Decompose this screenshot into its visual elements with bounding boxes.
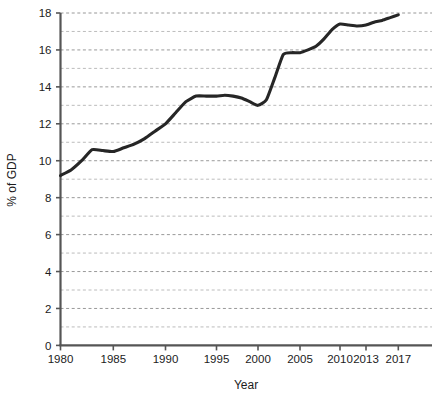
- x-axis-tick-label: 2010: [327, 353, 353, 365]
- y-axis-tick-labels: 024681012141618: [39, 7, 52, 351]
- y-axis-tick-label: 12: [39, 118, 52, 130]
- y-axis-title: % of GDP: [5, 153, 19, 206]
- y-axis-tick-label: 14: [39, 81, 52, 93]
- line-chart: 024681012141618 198019851990199520002005…: [0, 0, 442, 399]
- chart-container: 024681012141618 198019851990199520002005…: [0, 0, 442, 399]
- x-axis-tick-label: 1985: [101, 353, 127, 365]
- x-axis-tick-label: 2017: [386, 353, 412, 365]
- gridlines: [61, 13, 433, 327]
- x-axis-tick-labels: 198019851990199520002005201020132017: [48, 353, 411, 365]
- y-axis-tick-label: 0: [45, 340, 51, 352]
- x-axis-tick-label: 1995: [204, 353, 230, 365]
- x-axis-tick-label: 1990: [153, 353, 179, 365]
- x-axis-tick-label: 2000: [245, 353, 271, 365]
- x-axis-tick-label: 2005: [287, 353, 313, 365]
- y-axis-tick-label: 2: [45, 303, 51, 315]
- x-axis-tick-label: 2013: [353, 353, 379, 365]
- y-axis-tick-label: 4: [45, 266, 52, 278]
- y-axis-tick-label: 18: [39, 7, 52, 19]
- x-axis-title: Year: [234, 378, 258, 392]
- data-series-line: [61, 15, 399, 176]
- y-axis-tick-label: 8: [45, 192, 51, 204]
- y-axis-tick-label: 10: [39, 155, 52, 167]
- y-axis-tick-label: 6: [45, 229, 51, 241]
- y-axis-tick-label: 16: [39, 44, 52, 56]
- x-axis-tick-label: 1980: [48, 353, 74, 365]
